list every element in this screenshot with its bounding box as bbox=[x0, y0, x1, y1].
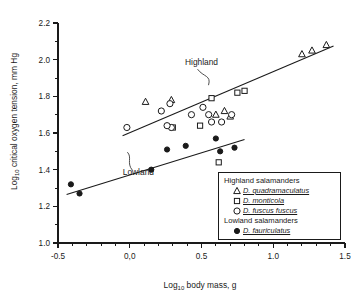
data-point bbox=[213, 111, 220, 117]
legend-marker bbox=[234, 198, 239, 203]
data-point bbox=[216, 160, 221, 165]
data-point bbox=[68, 182, 73, 187]
scatter-plot: 1.01.21.41.61.82.02.2 -0.50,00.51.01.5 H… bbox=[0, 0, 361, 300]
chart-figure: 1.01.21.41.61.82.02.2 -0.50,00.51.01.5 H… bbox=[0, 0, 361, 300]
legend-species-name: D. quadramaculatus bbox=[243, 186, 309, 196]
y-axis-title: Log10 critical oxygen tension, mm Hg bbox=[9, 53, 20, 190]
legend-marker bbox=[234, 208, 240, 214]
data-point bbox=[142, 98, 149, 104]
data-point bbox=[209, 96, 214, 101]
y-tick-label: 1.0 bbox=[39, 239, 51, 248]
legend-symbol-wrap bbox=[231, 186, 243, 196]
data-point bbox=[158, 108, 164, 114]
legend-symbol-open-triangle bbox=[232, 186, 242, 196]
y-tick-label: 1.6 bbox=[39, 129, 51, 138]
x-axis-tick-labels: -0.50,00.51.01.5 bbox=[51, 252, 351, 261]
legend-symbol-wrap bbox=[231, 196, 243, 206]
y-tick-label: 2.2 bbox=[39, 19, 51, 28]
data-point bbox=[164, 123, 170, 129]
legend-marker bbox=[234, 187, 241, 193]
y-tick-label: 1.4 bbox=[39, 166, 51, 175]
y-tick-label: 1.8 bbox=[39, 92, 51, 101]
legend-symbol-wrap bbox=[231, 206, 243, 216]
data-point bbox=[232, 145, 237, 150]
data-point bbox=[299, 51, 306, 57]
data-point bbox=[164, 147, 169, 152]
leader-line-highland bbox=[198, 69, 210, 85]
legend-symbol-wrap bbox=[231, 226, 243, 236]
data-point bbox=[242, 88, 247, 93]
data-point bbox=[235, 90, 240, 95]
y-axis-tick-labels: 1.01.21.41.61.82.02.2 bbox=[39, 19, 51, 248]
series-d-fauriculatus bbox=[68, 136, 237, 196]
series-d-monticola bbox=[170, 88, 247, 165]
x-tick-label: -0.5 bbox=[51, 252, 66, 261]
y-tick-label: 1.2 bbox=[39, 202, 51, 211]
data-point bbox=[197, 123, 202, 128]
data-point bbox=[206, 112, 212, 118]
data-point bbox=[213, 136, 218, 141]
legend-item[interactable]: D. quadramaculatus bbox=[224, 186, 336, 196]
legend-group-title: Lowland salamanders bbox=[224, 216, 336, 226]
data-point bbox=[221, 107, 228, 113]
legend-marker bbox=[234, 228, 239, 233]
data-point bbox=[229, 112, 235, 118]
legend-symbol-open-circle bbox=[232, 206, 242, 216]
legend-symbol-open-square bbox=[232, 196, 242, 206]
y-axis-ticks bbox=[53, 23, 58, 243]
series-d-quadramaculatus bbox=[142, 41, 329, 119]
legend-species-name: D. fuscus fuscus bbox=[243, 206, 297, 216]
data-point bbox=[167, 101, 173, 107]
x-tick-label: 0.5 bbox=[196, 252, 208, 261]
legend-item[interactable]: D. fauriculatus bbox=[224, 226, 336, 236]
y-tick-label: 2.0 bbox=[39, 56, 51, 65]
annotation-leader-lines bbox=[127, 69, 209, 170]
x-tick-label: 0,0 bbox=[124, 252, 136, 261]
data-point bbox=[124, 124, 130, 130]
legend-item[interactable]: D. fuscus fuscus bbox=[224, 206, 336, 216]
data-point bbox=[208, 119, 214, 125]
legend-item[interactable]: D. monticola bbox=[224, 196, 336, 206]
data-point bbox=[218, 119, 224, 125]
data-point bbox=[149, 167, 154, 172]
data-point bbox=[218, 149, 223, 154]
data-point bbox=[309, 47, 316, 53]
data-point bbox=[77, 191, 82, 196]
x-tick-label: 1.0 bbox=[268, 252, 280, 261]
legend-group-title: Highland salamanders bbox=[224, 176, 336, 186]
data-point bbox=[188, 112, 194, 118]
legend-species-name: D. monticola bbox=[243, 196, 284, 206]
data-point bbox=[323, 41, 330, 47]
chart-legend: Highland salamandersD. quadramaculatusD.… bbox=[218, 172, 341, 240]
data-point bbox=[200, 104, 206, 110]
legend-species-name: D. fauriculatus bbox=[243, 226, 290, 236]
legend-symbol-filled-circle bbox=[232, 226, 242, 236]
annotation-highland: Highland bbox=[185, 57, 218, 67]
data-point bbox=[183, 143, 188, 148]
x-axis-title: Log10 body mass, g bbox=[164, 280, 237, 291]
regression-line-highland bbox=[123, 46, 334, 136]
x-tick-label: 1.5 bbox=[339, 252, 351, 261]
x-axis-ticks bbox=[58, 243, 345, 248]
